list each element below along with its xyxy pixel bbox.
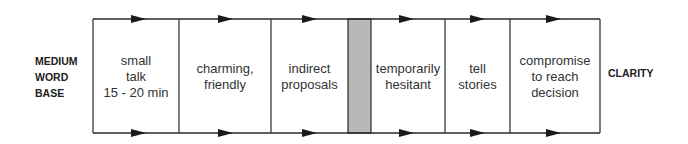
stage-charming-friendly: charming,friendly xyxy=(179,20,271,133)
end-label: CLARITY xyxy=(608,65,654,81)
start-label: MEDIUM WORD BASE xyxy=(35,53,78,101)
stage-small-talk: smalltalk15 - 20 min xyxy=(93,20,179,133)
gray-separator-bar xyxy=(348,19,371,133)
stage-temporarily-hesitant: temporarilyhesitant xyxy=(371,20,445,133)
stage-indirect-proposals: indirectproposals xyxy=(271,20,348,133)
stage-tell-stories: tellstories xyxy=(445,20,510,133)
stage-compromise: compromiseto reachdecision xyxy=(510,20,600,133)
